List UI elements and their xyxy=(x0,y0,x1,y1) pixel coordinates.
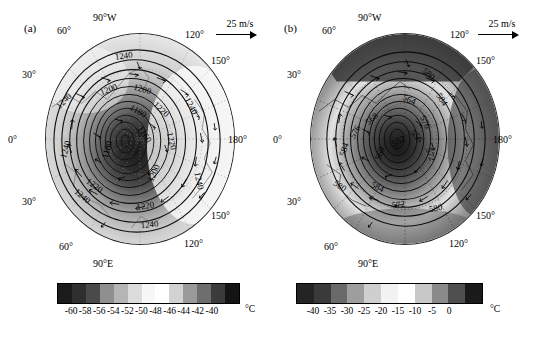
colorbar-swatch-10 xyxy=(197,284,211,303)
colorbar-tick-2: -56 xyxy=(93,306,106,316)
panel-b-colorbar-ticks: -40-35-30-25-20-15-10-50 xyxy=(296,306,483,320)
panel-b-lon-right-upper: 150° xyxy=(476,55,495,66)
colorbar-tick-2: -30 xyxy=(341,306,354,316)
colorbar-swatch-3 xyxy=(347,284,364,303)
panel-a-lon-top-left: 60° xyxy=(57,25,71,36)
panel-a-lon-bottom-left: 60° xyxy=(59,241,73,252)
panel-b-map: 580 580 580 584 584 584 576 576 572 572 … xyxy=(310,33,500,245)
colorbar-swatch-9 xyxy=(183,284,197,303)
panel-a-lon-left-middle: 0° xyxy=(8,134,17,145)
colorbar-tick-5: -50 xyxy=(135,306,148,316)
colorbar-tick-9: -42 xyxy=(191,306,204,316)
panel-a-lon-bottom: 90°E xyxy=(93,258,113,269)
colorbar-tick-1: -58 xyxy=(79,306,92,316)
panel-a-map: 1240 1240 1240 1240 1240 1240 1240 1220 … xyxy=(45,33,235,245)
panel-b: (b) 25 m/s xyxy=(268,0,537,275)
panel-a-globe: 1240 1240 1240 1240 1240 1240 1240 1220 … xyxy=(45,33,235,245)
panel-b-wind-scale-label: 25 m/s xyxy=(476,18,528,29)
panel-a-colorbar-unit: °C xyxy=(245,304,255,314)
panel-b-lon-right-lower: 150° xyxy=(476,210,495,221)
colorbar-swatch-4 xyxy=(364,284,381,303)
colorbar-tick-5: -15 xyxy=(392,306,405,316)
colorbar-swatch-12 xyxy=(225,284,239,303)
panel-b-lon-top-right: 120° xyxy=(450,29,469,40)
panel-a-colorbar-ticks: -60-58-56-54-52-50-48-46-44-42-40 xyxy=(57,306,240,320)
colorbar-swatch-0 xyxy=(58,284,72,303)
panel-a: (a) 25 m/s xyxy=(0,0,268,275)
panel-a-label: (a) xyxy=(24,22,36,34)
colorbar-tick-7: -46 xyxy=(163,306,176,316)
colorbar-tick-1: -35 xyxy=(324,306,337,316)
panel-b-lon-top-left: 60° xyxy=(322,25,336,36)
panel-b-lon-bottom: 90°E xyxy=(358,258,378,269)
panel-a-lon-bottom-right: 120° xyxy=(184,238,203,249)
panel-b-lon-bottom-left: 60° xyxy=(324,241,338,252)
colorbar-tick-0: -60 xyxy=(65,306,78,316)
panel-b-lon-right-middle: 180° xyxy=(493,134,512,145)
panel-a-wind-scale-label: 25 m/s xyxy=(214,18,266,29)
colorbar-tick-10: -40 xyxy=(206,306,219,316)
colorbar-swatch-7 xyxy=(155,284,169,303)
panel-a-lon-left-upper: 30° xyxy=(22,69,36,80)
colorbar-tick-0: -40 xyxy=(307,306,320,316)
colorbar-tick-8: -44 xyxy=(177,306,190,316)
panel-a-colorbar: -60-58-56-54-52-50-48-46-44-42-40 °C xyxy=(57,283,240,320)
panel-b-lon-bottom-right: 120° xyxy=(449,238,468,249)
colorbar-tick-8: 0 xyxy=(447,306,452,316)
colorbar-tick-3: -25 xyxy=(358,306,371,316)
panel-b-lon-left-lower: 30° xyxy=(287,196,301,207)
colorbar-swatch-1 xyxy=(314,284,331,303)
colorbar-swatch-8 xyxy=(169,284,183,303)
panel-a-lon-right-upper: 150° xyxy=(211,55,230,66)
colorbar-tick-4: -52 xyxy=(121,306,134,316)
colorbar-tick-6: -48 xyxy=(149,306,162,316)
colorbar-swatch-11 xyxy=(211,284,225,303)
colorbar-swatch-6 xyxy=(142,284,156,303)
colorbar-swatch-7 xyxy=(415,284,432,303)
colorbar-swatch-0 xyxy=(297,284,314,303)
colorbar-tick-3: -54 xyxy=(107,306,120,316)
panel-a-lon-top-right: 120° xyxy=(185,29,204,40)
colorbar-tick-6: -10 xyxy=(409,306,422,316)
panel-b-colorbar-unit: °C xyxy=(490,304,500,314)
colorbar-swatch-8 xyxy=(432,284,449,303)
panel-a-lon-right-lower: 150° xyxy=(211,210,230,221)
panel-a-colorbar-strip xyxy=(57,283,240,304)
colorbar-tick-4: -20 xyxy=(375,306,388,316)
colorbar-swatch-9 xyxy=(448,284,465,303)
panel-b-lon-top: 90°W xyxy=(358,12,381,23)
colorbar-swatch-5 xyxy=(381,284,398,303)
colorbar-swatch-4 xyxy=(114,284,128,303)
panel-b-colorbar: -40-35-30-25-20-15-10-50 °C xyxy=(296,283,483,320)
colorbar-swatch-6 xyxy=(398,284,415,303)
colorbar-swatch-3 xyxy=(100,284,114,303)
panel-b-colorbar-strip xyxy=(296,283,483,304)
panel-b-globe: 580 580 580 584 584 584 576 576 572 572 … xyxy=(310,33,500,245)
panel-b-lon-left-middle: 0° xyxy=(273,134,282,145)
panel-a-lon-top: 90°W xyxy=(93,12,116,23)
panel-b-lon-left-upper: 30° xyxy=(287,69,301,80)
colorbar-tick-7: -5 xyxy=(428,306,436,316)
panel-a-lon-right-middle: 180° xyxy=(228,134,247,145)
svg-text:572: 572 xyxy=(391,199,406,211)
colorbar-swatch-2 xyxy=(86,284,100,303)
svg-text:1240: 1240 xyxy=(140,218,159,230)
panel-b-label: (b) xyxy=(284,22,297,34)
colorbar-swatch-10 xyxy=(465,284,482,303)
panel-a-lon-left-lower: 30° xyxy=(22,196,36,207)
colorbar-swatch-5 xyxy=(128,284,142,303)
colorbar-swatch-2 xyxy=(331,284,348,303)
colorbar-swatch-1 xyxy=(72,284,86,303)
